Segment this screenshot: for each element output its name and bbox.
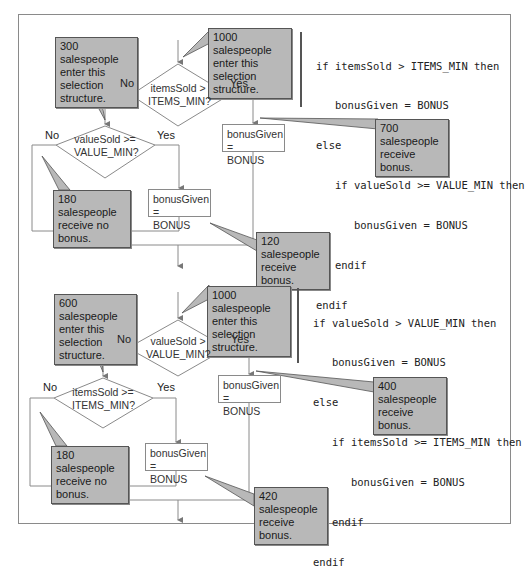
callout-line: enter this selection xyxy=(212,315,286,341)
callout-line: receive no bonus. xyxy=(56,475,124,501)
bottom-pseudocode: if valueSold > VALUE_MIN then bonusGiven… xyxy=(313,290,522,570)
code-line: bonusGiven = BONUS xyxy=(316,219,525,232)
code-line: endif xyxy=(313,556,522,569)
callout-line: receive no bonus. xyxy=(58,219,126,245)
code-line: if valueSold > VALUE_MIN then xyxy=(313,317,522,330)
bottom-outer-yes-action: bonusGiven = BONUS xyxy=(218,375,281,403)
condition-line: valueSold >= xyxy=(74,133,136,146)
top-inner-no-callout: 180 salespeople receive no bonus. xyxy=(53,190,131,248)
bottom-inner-entry-callout: 600 salespeople enter this selection str… xyxy=(54,294,137,365)
condition-line: VALUE_MIN? xyxy=(74,146,136,159)
bottom-inner-no-label: No xyxy=(43,381,57,394)
top-outer-condition: itemsSold > ITEMS_MIN? xyxy=(148,82,208,108)
bottom-outer-yes-label: Yes xyxy=(231,333,249,346)
top-outer-no-label: No xyxy=(120,77,134,90)
callout-line: 300 salespeople xyxy=(60,40,133,66)
code-line: bonusGiven = BONUS xyxy=(313,356,522,369)
action-line: bonusGiven = xyxy=(150,447,203,473)
bottom-entry-callout: 1000 salespeople enter this selection st… xyxy=(207,286,291,357)
bottom-inner-yes-label: Yes xyxy=(157,381,175,394)
callout-line: structure. xyxy=(59,349,132,362)
code-line: bonusGiven = BONUS xyxy=(316,99,525,112)
callout-line: structure. xyxy=(60,92,133,105)
action-line: BONUS xyxy=(223,405,276,418)
top-inner-yes-label: Yes xyxy=(157,129,175,142)
callout-line: 180 salespeople xyxy=(58,193,126,219)
callout-line: enter this selection xyxy=(213,57,287,83)
action-line: BONUS xyxy=(150,473,203,486)
callout-line: 600 salespeople xyxy=(59,297,132,323)
callout-line: 180 salespeople xyxy=(56,449,124,475)
top-entry-callout: 1000 salespeople enter this selection st… xyxy=(208,28,292,99)
condition-line: valueSold > xyxy=(146,335,210,348)
bottom-outer-no-label: No xyxy=(117,333,131,346)
callout-line: structure. xyxy=(213,83,287,96)
bottom-inner-yes-action: bonusGiven = BONUS xyxy=(145,443,208,471)
action-line: bonusGiven = xyxy=(227,128,280,154)
bottom-inner-condition: itemsSold >= ITEMS_MIN? xyxy=(72,386,134,412)
condition-line: itemsSold >= xyxy=(72,386,134,399)
code-line: else xyxy=(313,396,522,409)
code-line: if itemsSold >= ITEMS_MIN then xyxy=(313,436,522,449)
top-inner-yes-action: bonusGiven = BONUS xyxy=(148,189,211,217)
top-code-bar xyxy=(300,32,302,107)
code-line: endif xyxy=(313,516,522,529)
code-line: else xyxy=(316,139,525,152)
top-outer-yes-label: Yes xyxy=(230,77,248,90)
top-inner-no-label: No xyxy=(45,129,59,142)
action-line: bonusGiven = xyxy=(153,193,206,219)
code-line: if valueSold >= VALUE_MIN then xyxy=(316,179,525,192)
callout-line: 1000 salespeople xyxy=(213,31,287,57)
top-inner-entry-callout: 300 salespeople enter this selection str… xyxy=(55,37,138,108)
callout-line: structure. xyxy=(212,341,286,354)
top-inner-condition: valueSold >= VALUE_MIN? xyxy=(74,133,136,159)
action-line: BONUS xyxy=(153,219,206,232)
condition-line: ITEMS_MIN? xyxy=(72,399,134,412)
bottom-outer-condition: valueSold > VALUE_MIN? xyxy=(146,335,210,361)
code-line: if itemsSold > ITEMS_MIN then xyxy=(316,60,525,73)
top-pseudocode: if itemsSold > ITEMS_MIN then bonusGiven… xyxy=(316,33,525,326)
bottom-inner-no-callout: 180 salespeople receive no bonus. xyxy=(51,446,129,504)
condition-line: itemsSold > xyxy=(148,82,208,95)
action-line: bonusGiven = xyxy=(223,379,276,405)
condition-line: VALUE_MIN? xyxy=(146,348,210,361)
bottom-code-bar xyxy=(297,288,299,363)
action-line: BONUS xyxy=(227,154,280,167)
condition-line: ITEMS_MIN? xyxy=(148,95,208,108)
callout-line: 1000 salespeople xyxy=(212,289,286,315)
code-line: bonusGiven = BONUS xyxy=(313,476,522,489)
code-line: endif xyxy=(316,259,525,272)
top-outer-yes-action: bonusGiven = BONUS xyxy=(222,124,285,152)
